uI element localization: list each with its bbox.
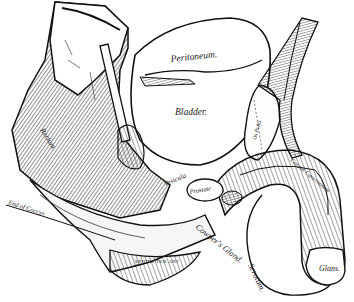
cowpers-gland-label: Cowper's Gland. [194,222,246,265]
bladder-label: Bladder. [175,107,207,117]
glans-label: Glans. [319,264,340,273]
figure-canvas: Peritoneum. Bladder. Rectum Vesicula Pro… [0,0,354,302]
scrotum-label: Scrotum. [246,262,268,294]
anatomical-figure: Peritoneum. Bladder. Rectum Vesicula Pro… [0,0,354,302]
sphincter-label: SPHINCTER ANI [135,259,179,264]
vesicula-label: Vesicula [163,172,188,188]
